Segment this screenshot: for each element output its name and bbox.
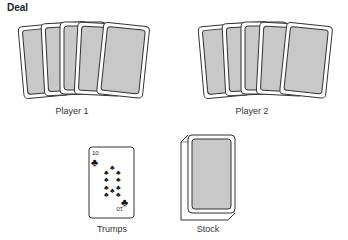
- svg-text:♣: ♣: [104, 176, 109, 183]
- stock-label: Stock: [178, 224, 238, 234]
- svg-text:♣: ♣: [104, 184, 109, 191]
- player2-hand: [198, 22, 333, 99]
- trumps-label: Trumps: [82, 224, 142, 234]
- svg-text:10: 10: [116, 206, 123, 212]
- svg-text:♣: ♣: [116, 169, 121, 176]
- svg-text:♣: ♣: [110, 187, 115, 194]
- svg-text:♣: ♣: [116, 184, 121, 191]
- card-diagram: 10 ♣ ♣ ♣ ♣ ♣ ♣ ♣ ♣ ♣ ♣ ♣ ♣ 10: [0, 0, 348, 240]
- card-back: [279, 22, 332, 98]
- stock-pile: [181, 135, 235, 220]
- svg-text:♣: ♣: [91, 156, 98, 168]
- svg-text:♣: ♣: [104, 191, 109, 198]
- svg-text:♣: ♣: [110, 164, 115, 171]
- trump-card: 10 ♣ ♣ ♣ ♣ ♣ ♣ ♣ ♣ ♣ ♣ ♣ ♣ 10: [89, 147, 134, 218]
- player1-hand: [18, 22, 150, 99]
- player1-label: Player 1: [42, 106, 102, 116]
- card-back: [96, 22, 149, 98]
- svg-text:♣: ♣: [116, 176, 121, 183]
- player2-label: Player 2: [222, 106, 282, 116]
- svg-text:♣: ♣: [104, 169, 109, 176]
